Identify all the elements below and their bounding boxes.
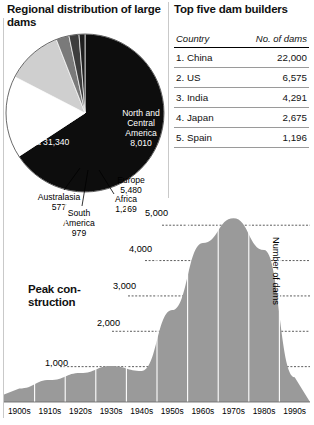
table-cell-country: 5. Spain bbox=[176, 132, 212, 143]
table-col-country: Country bbox=[176, 33, 209, 44]
table-row: 3. India4,291 bbox=[174, 88, 309, 107]
table-cell-dams: 22,000 bbox=[277, 52, 307, 63]
panel-divider bbox=[168, 2, 169, 198]
x-axis-labels: 1900s1910s1920s1930s1940s1950s1960s1970s… bbox=[4, 406, 310, 416]
peak-construction-chart bbox=[0, 196, 314, 425]
table-cell-dams: 4,291 bbox=[282, 92, 307, 103]
x-tick-1950s: 1950s bbox=[157, 406, 188, 416]
y-tick-4000: 4,000 bbox=[112, 244, 152, 254]
table-cell-dams: 2,675 bbox=[282, 112, 307, 123]
table-row: 1. China22,000 bbox=[174, 48, 309, 67]
area-title-line1: Peak con- bbox=[28, 283, 81, 295]
table-row-divider bbox=[174, 147, 309, 148]
table-row: 5. Spain1,196 bbox=[174, 128, 309, 147]
table-cell-country: 3. India bbox=[176, 92, 208, 103]
x-tick-1970s: 1970s bbox=[218, 406, 249, 416]
table-cell-country: 2. US bbox=[176, 72, 201, 83]
y-tick-5000: 5,000 bbox=[128, 208, 168, 218]
table-col-dams: No. of dams bbox=[256, 33, 307, 44]
table-cell-country: 4. Japan bbox=[176, 112, 214, 123]
x-tick-1930s: 1930s bbox=[96, 406, 127, 416]
x-tick-1910s: 1910s bbox=[35, 406, 66, 416]
table-cell-country: 1. China bbox=[176, 52, 213, 63]
area-chart-svg bbox=[0, 196, 314, 425]
table-cell-dams: 6,575 bbox=[282, 72, 307, 83]
x-tick-1980s: 1980s bbox=[249, 406, 280, 416]
x-tick-1990s: 1990s bbox=[279, 406, 310, 416]
y-tick-1000: 1,000 bbox=[28, 358, 68, 368]
table-body: 1. China22,0002. US6,5753. India4,2914. … bbox=[174, 48, 309, 148]
table-panel-title: Top five dam builders bbox=[174, 3, 304, 16]
y-axis-label: Number of dams bbox=[271, 237, 281, 305]
x-tick-1940s: 1940s bbox=[126, 406, 157, 416]
x-tick-1900s: 1900s bbox=[4, 406, 35, 416]
y-tick-3000: 3,000 bbox=[96, 281, 136, 291]
table-row: 4. Japan2,675 bbox=[174, 108, 309, 127]
area-title-line2: struction bbox=[28, 296, 75, 308]
table-header-row: Country No. of dams bbox=[174, 33, 309, 47]
table-cell-dams: 1,196 bbox=[282, 132, 307, 143]
x-tick-1960s: 1960s bbox=[188, 406, 219, 416]
pie-panel-title: Regional distribution of large dams bbox=[7, 3, 162, 28]
table-row: 2. US6,575 bbox=[174, 68, 309, 87]
x-tick-1920s: 1920s bbox=[65, 406, 96, 416]
top-dam-builders-table: Country No. of dams 1. China22,0002. US6… bbox=[174, 33, 309, 148]
infographic-page: Regional distribution of large dams Top … bbox=[0, 0, 314, 425]
y-tick-2000: 2,000 bbox=[80, 318, 120, 328]
